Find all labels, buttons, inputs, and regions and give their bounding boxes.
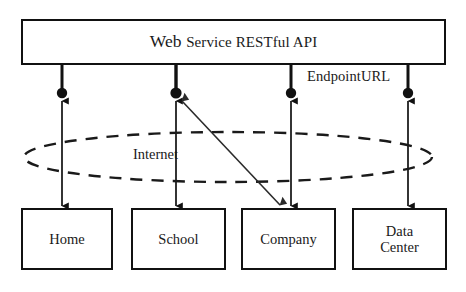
client-label-home: Home: [49, 231, 84, 247]
client-connectors: [62, 101, 408, 206]
endpoint-dot-4: [403, 88, 413, 98]
endpoint-dots: [57, 87, 413, 98]
api-box[interactable]: Web Service RESTful API: [21, 19, 446, 65]
api-title-lead: Web: [150, 31, 186, 51]
endpoint-dot-2: [170, 87, 181, 98]
endpoint-dot-3: [286, 88, 296, 98]
client-label-datacenter: Data Center: [380, 223, 419, 255]
api-box-title: Web Service RESTful API: [150, 32, 317, 52]
api-title-rest: Service RESTful API: [186, 34, 317, 50]
endpoint-url-label: EndpointURL: [307, 68, 390, 85]
client-label-school: School: [158, 231, 198, 247]
client-label-datacenter-line2: Center: [380, 239, 419, 255]
client-box-home[interactable]: Home: [21, 208, 113, 270]
diagram-canvas: Web Service RESTful API EndpointURL Inte…: [0, 0, 466, 292]
client-label-company: Company: [260, 231, 316, 247]
internet-cloud: [24, 132, 432, 182]
client-box-datacenter[interactable]: Data Center: [352, 208, 447, 270]
diagonal-link: [182, 101, 280, 205]
client-box-school[interactable]: School: [131, 208, 226, 270]
internet-label: Internet: [133, 146, 178, 163]
endpoint-dot-1: [57, 88, 67, 98]
client-label-datacenter-line1: Data: [380, 223, 419, 239]
client-box-company[interactable]: Company: [241, 208, 336, 270]
